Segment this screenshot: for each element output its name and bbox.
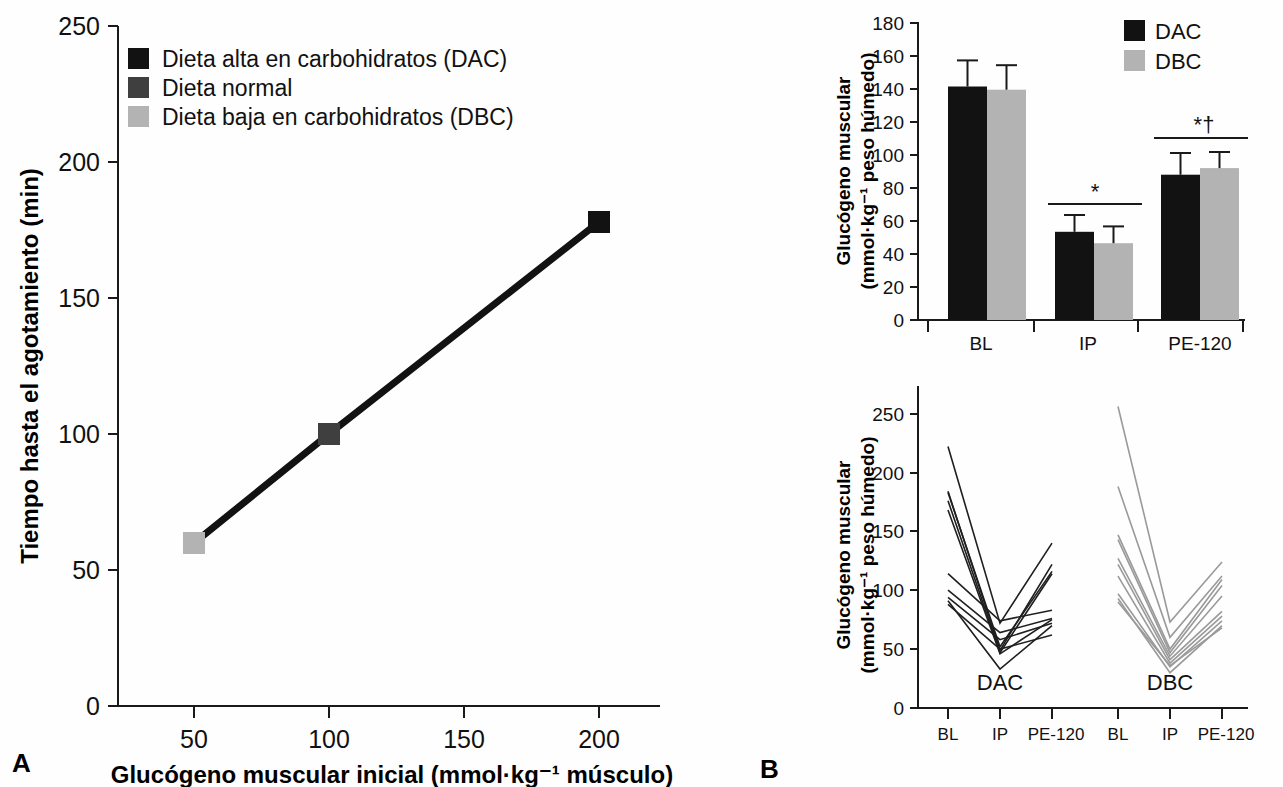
- panel-b-bottom-y-axis-title: Glucógeno muscular (mmol·kg⁻¹ peso húmed…: [833, 437, 878, 674]
- panel-a-ytick-250: 250: [58, 12, 100, 40]
- panel-a-legend: Dieta alta en carbohidratos (DAC) Dieta …: [128, 46, 514, 130]
- panel-a-ytick-0: 0: [86, 692, 100, 720]
- cat-label-ip: IP: [1079, 333, 1097, 354]
- pbt-ylabel-line1: Glucógeno muscular: [833, 76, 854, 266]
- panel-b-bottom-x-ticks: [948, 708, 1222, 719]
- pbt-ytick-20: 20: [883, 277, 904, 298]
- panel-a: 0 50 100 150 200 250 50 100 150 200: [0, 0, 700, 787]
- pbb-group-labels: DAC DBC: [977, 670, 1194, 695]
- panel-b-bottom: 0 50 100 150 200 250 BL IP PE-120 BL: [700, 370, 1283, 787]
- panel-b-top-legend: DAC DBC: [1124, 19, 1202, 74]
- panel-a-xtick-200: 200: [578, 725, 620, 753]
- panel-b-top-y-ticks: [910, 23, 918, 320]
- bar-bl-dbc: [987, 90, 1026, 320]
- panel-a-marker-dbc: [183, 532, 205, 554]
- legend-swatch-normal: [128, 77, 149, 98]
- bar-ip-dbc: [1094, 243, 1133, 320]
- panel-b-top: 0 20 40 60 80 100 120 140 160 180: [700, 0, 1283, 370]
- panel-a-ytick-50: 50: [72, 556, 100, 584]
- pbt-ytick-180: 180: [872, 13, 904, 34]
- pbb-xtick-dac-ip: IP: [992, 725, 1008, 744]
- pbb-ylabel-line2: (mmol·kg⁻¹ peso húmedo): [857, 437, 878, 674]
- panel-a-ytick-100: 100: [58, 420, 100, 448]
- panel-a-svg: 0 50 100 150 200 250 50 100 150 200: [0, 0, 700, 787]
- pbt-ytick-60: 60: [883, 211, 904, 232]
- legend-label-normal: Dieta normal: [162, 75, 292, 101]
- pbb-xtick-dbc-pe120: PE-120: [1198, 725, 1255, 744]
- pbb-group-dbc-traces: [1118, 407, 1222, 673]
- pbb-xtick-dac-bl: BL: [938, 725, 959, 744]
- panel-a-y-tick-labels: 0 50 100 150 200 250: [58, 12, 100, 720]
- panel-a-y-ticks: [108, 26, 118, 706]
- panel-a-x-ticks: [194, 706, 599, 718]
- panel-a-marker-dac: [588, 211, 610, 233]
- bar-bl-dac: [948, 87, 987, 321]
- panel-a-y-axis-title: Tiempo hasta el agotamiento (min): [16, 168, 43, 564]
- legend-label-dbc: Dieta baja en carbohidratos (DBC): [162, 104, 514, 130]
- sig-symbol-pe120: *†: [1194, 112, 1215, 137]
- panel-a-x-tick-labels: 50 100 150 200: [180, 725, 620, 753]
- panel-b-bottom-x-tick-labels: BL IP PE-120 BL IP PE-120: [938, 725, 1255, 744]
- legend-label-bar-dbc: DBC: [1155, 49, 1202, 74]
- cat-label-pe120: PE-120: [1168, 333, 1231, 354]
- legend-swatch-bar-dbc: [1124, 50, 1145, 71]
- pbb-xtick-dbc-bl: BL: [1108, 725, 1129, 744]
- pbb-ytick-0: 0: [893, 698, 904, 719]
- legend-swatch-bar-dac: [1124, 20, 1145, 41]
- legend-label-bar-dac: DAC: [1155, 19, 1202, 44]
- pbt-ytick-80: 80: [883, 178, 904, 199]
- panel-b-top-y-axis-title: Glucógeno muscular (mmol·kg⁻¹ peso húmed…: [833, 53, 878, 290]
- pbb-xtick-dbc-ip: IP: [1162, 725, 1178, 744]
- pbb-ytick-250: 250: [872, 404, 904, 425]
- pbb-group-dac-traces: [948, 447, 1052, 670]
- cat-label-bl: BL: [969, 333, 992, 354]
- legend-swatch-dac: [128, 48, 149, 69]
- panel-a-x-axis-title: Glucógeno muscular inicial (mmol·kg⁻¹ mú…: [111, 761, 673, 787]
- bar-pe120-dbc: [1200, 168, 1239, 320]
- panel-a-data-line: [194, 222, 599, 543]
- sig-symbol-ip: *: [1091, 179, 1100, 204]
- legend-swatch-dbc: [128, 106, 149, 127]
- panel-b-top-x-ticks: [928, 320, 1243, 332]
- figure-root: 0 50 100 150 200 250 50 100 150 200: [0, 0, 1283, 787]
- panel-b-top-svg: 0 20 40 60 80 100 120 140 160 180: [700, 0, 1283, 370]
- panel-a-xtick-150: 150: [443, 725, 485, 753]
- pbt-ytick-40: 40: [883, 244, 904, 265]
- pbb-ylabel-line1: Glucógeno muscular: [833, 460, 854, 650]
- panel-b-bottom-svg: 0 50 100 150 200 250 BL IP PE-120 BL: [700, 370, 1283, 787]
- pbb-xtick-dac-pe120: PE-120: [1028, 725, 1085, 744]
- pbb-group-label-dac: DAC: [977, 670, 1024, 695]
- panel-a-xtick-100: 100: [308, 725, 350, 753]
- panel-a-letter: A: [12, 748, 31, 778]
- legend-label-dac: Dieta alta en carbohidratos (DAC): [162, 46, 507, 72]
- panel-a-ytick-150: 150: [58, 284, 100, 312]
- panel-a-xtick-50: 50: [180, 725, 208, 753]
- pbb-group-label-dbc: DBC: [1147, 670, 1194, 695]
- bar-pe120-dac: [1161, 175, 1200, 320]
- bar-ip-dac: [1055, 232, 1094, 320]
- pbt-ytick-0: 0: [893, 310, 904, 331]
- pbt-ylabel-line2: (mmol·kg⁻¹ peso húmedo): [857, 53, 878, 290]
- panel-a-ytick-200: 200: [58, 148, 100, 176]
- panel-b-bottom-y-ticks: [910, 414, 918, 708]
- panel-b-letter: B: [760, 754, 779, 784]
- pbb-ytick-50: 50: [883, 639, 904, 660]
- panel-a-marker-normal: [318, 423, 340, 445]
- panel-b-top-category-labels: BL IP PE-120: [969, 333, 1231, 354]
